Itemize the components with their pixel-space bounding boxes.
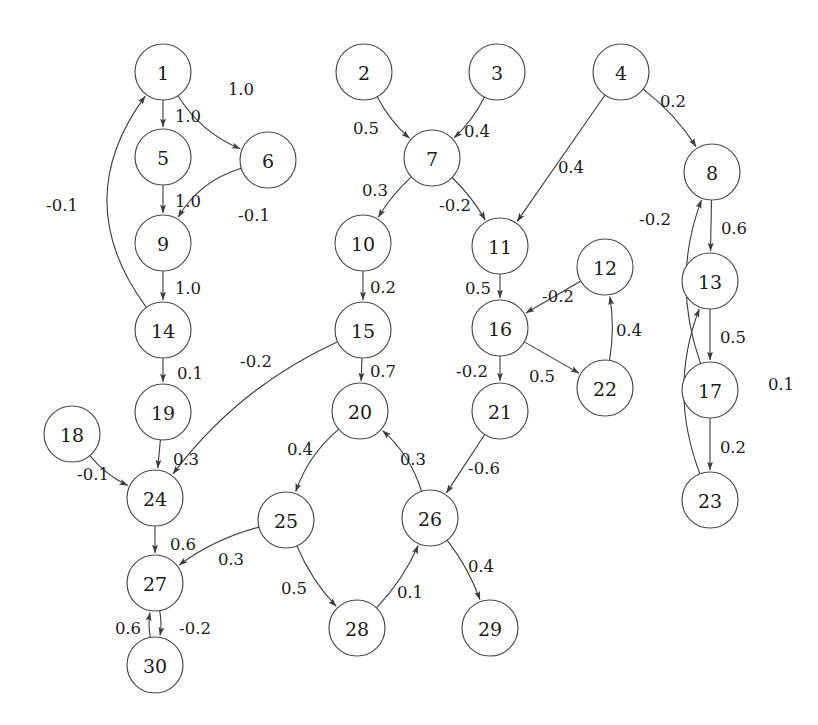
edge-weight-5-9: 1.0 (175, 192, 201, 211)
node-circle-12[interactable] (577, 239, 633, 295)
graph-node-27[interactable]: 27 (127, 555, 183, 611)
node-circle-23[interactable] (682, 472, 738, 528)
graph-node-18[interactable]: 18 (44, 406, 100, 462)
graph-node-3[interactable]: 3 (469, 44, 525, 100)
edge-15-to-20 (361, 358, 362, 381)
edge-weight-14-19: 0.1 (177, 364, 203, 383)
edge-6-to-9 (178, 168, 241, 217)
edge-weight-8-13: 0.6 (721, 219, 747, 238)
node-circle-30[interactable] (127, 637, 183, 693)
edge-weight-19-24: 0.3 (173, 450, 199, 469)
graph-node-12[interactable]: 12 (577, 239, 633, 295)
edge-weight-13-17: 0.5 (720, 328, 746, 347)
edge-weight-25-27: 0.3 (218, 550, 244, 569)
edge-weight-26-20: 0.3 (400, 450, 426, 469)
node-circle-26[interactable] (402, 490, 458, 546)
edge-weight-2-7: 0.5 (353, 119, 379, 138)
graph-node-10[interactable]: 10 (335, 215, 391, 271)
node-circle-29[interactable] (462, 600, 518, 656)
graph-node-2[interactable]: 2 (336, 44, 392, 100)
node-circle-28[interactable] (329, 600, 385, 656)
node-circle-5[interactable] (135, 129, 191, 185)
graph-node-24[interactable]: 24 (127, 470, 183, 526)
edge-20-to-25 (296, 429, 339, 491)
edge-7-to-10 (378, 177, 411, 217)
graph-node-5[interactable]: 5 (135, 129, 191, 185)
graph-node-22[interactable]: 22 (577, 360, 633, 416)
node-circle-20[interactable] (332, 383, 388, 439)
graph-node-4[interactable]: 4 (593, 44, 649, 100)
edge-weight-18-24: -0.1 (77, 465, 109, 484)
node-circle-14[interactable] (135, 302, 191, 358)
node-circle-17[interactable] (682, 362, 738, 418)
edge-weight-16-22: 0.5 (529, 367, 555, 386)
graph-node-17[interactable]: 17 (682, 362, 738, 418)
edge-16-to-22 (524, 342, 579, 373)
node-circle-24[interactable] (127, 470, 183, 526)
edge-weight-15-24: -0.2 (240, 352, 272, 371)
node-circle-4[interactable] (593, 44, 649, 100)
node-circle-25[interactable] (258, 492, 314, 548)
edge-weight-17-8: -0.2 (639, 210, 671, 229)
node-circle-19[interactable] (135, 384, 191, 440)
graph-node-15[interactable]: 15 (335, 302, 391, 358)
edge-weight-26-29: 0.4 (468, 557, 494, 576)
node-circle-7[interactable] (404, 130, 460, 186)
graph-node-1[interactable]: 1 (135, 44, 191, 100)
node-circle-22[interactable] (577, 360, 633, 416)
edge-22-to-12 (610, 297, 613, 361)
node-circle-3[interactable] (469, 44, 525, 100)
edge-8-to-13 (711, 200, 712, 251)
graph-node-25[interactable]: 25 (258, 492, 314, 548)
edge-weight-16-21: -0.2 (456, 362, 488, 381)
edge-weight-6-9: -0.1 (238, 206, 270, 225)
edge-30-to-27 (149, 613, 150, 638)
node-circle-8[interactable] (684, 144, 740, 200)
graph-node-21[interactable]: 21 (472, 383, 528, 439)
edge-weight-15-20: 0.7 (370, 362, 396, 381)
graph-node-28[interactable]: 28 (329, 600, 385, 656)
edge-weight-22-12: 0.4 (616, 321, 642, 340)
node-circle-1[interactable] (135, 44, 191, 100)
node-circle-2[interactable] (336, 44, 392, 100)
graph-node-14[interactable]: 14 (135, 302, 191, 358)
graph-node-7[interactable]: 7 (404, 130, 460, 186)
edge-weight-24-27: 0.6 (170, 535, 196, 554)
node-circle-21[interactable] (472, 383, 528, 439)
graph-node-26[interactable]: 26 (402, 490, 458, 546)
edge-28-to-26 (376, 546, 418, 608)
graph-node-8[interactable]: 8 (684, 144, 740, 200)
graph-node-9[interactable]: 9 (135, 215, 191, 271)
edge-12-to-16 (526, 281, 581, 313)
edge-3-to-7 (454, 97, 484, 138)
graph-node-29[interactable]: 29 (462, 600, 518, 656)
node-circle-27[interactable] (127, 555, 183, 611)
graph-node-30[interactable]: 30 (127, 637, 183, 693)
edge-27-to-30 (160, 611, 161, 636)
edge-25-to-27 (179, 527, 259, 565)
node-circle-11[interactable] (472, 218, 528, 274)
node-circle-16[interactable] (472, 300, 528, 356)
edge-19-to-24 (158, 440, 161, 468)
edge-26-to-29 (447, 540, 480, 600)
node-circle-18[interactable] (44, 406, 100, 462)
edge-21-to-26 (446, 434, 484, 492)
graph-node-6[interactable]: 6 (240, 132, 296, 188)
node-circle-9[interactable] (135, 215, 191, 271)
graph-node-11[interactable]: 11 (472, 218, 528, 274)
node-circle-13[interactable] (682, 253, 738, 309)
edge-weight-30-27: -0.2 (179, 619, 211, 638)
node-circle-10[interactable] (335, 215, 391, 271)
node-circle-15[interactable] (335, 302, 391, 358)
edge-weight-23-13: 0.1 (768, 375, 794, 394)
edge-weight-14-1: -0.1 (46, 196, 78, 215)
edge-weight-1-6: 1.0 (228, 80, 254, 99)
node-circle-6[interactable] (240, 132, 296, 188)
graph-canvas: 1.01.01.0-0.11.0-0.10.10.3-0.1-0.20.60.3… (0, 0, 818, 725)
graph-node-19[interactable]: 19 (135, 384, 191, 440)
graph-node-20[interactable]: 20 (332, 383, 388, 439)
graph-node-23[interactable]: 23 (682, 472, 738, 528)
graph-node-16[interactable]: 16 (472, 300, 528, 356)
edge-weight-12-16: -0.2 (542, 287, 574, 306)
graph-node-13[interactable]: 13 (682, 253, 738, 309)
